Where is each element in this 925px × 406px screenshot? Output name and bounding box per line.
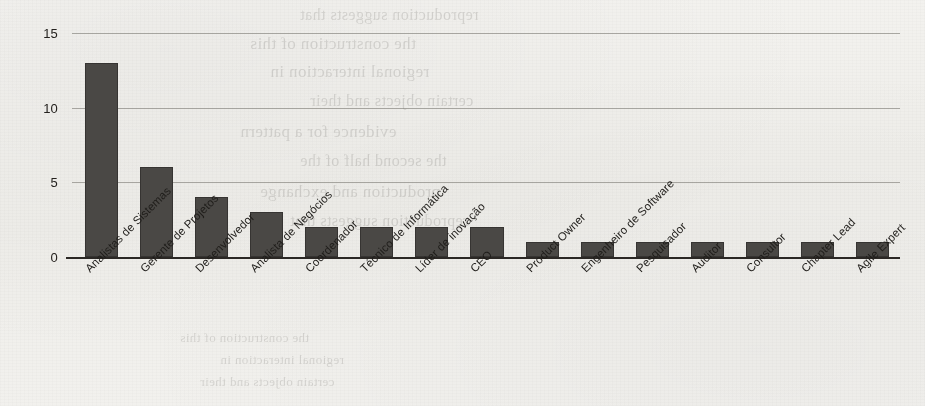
y-axis-tick-label: 15 — [18, 26, 58, 41]
gridline — [72, 33, 900, 34]
x-axis-category-label: Engenheiro de Software — [579, 177, 676, 274]
bar-chart: 051015 Analistas de SistemasGerente de P… — [0, 0, 925, 406]
y-axis-tick-label: 0 — [18, 250, 58, 265]
gridline — [72, 182, 900, 183]
y-axis-tick-label: 10 — [18, 100, 58, 115]
bar — [85, 63, 118, 257]
gridline — [72, 108, 900, 109]
y-axis-tick-label: 5 — [18, 175, 58, 190]
